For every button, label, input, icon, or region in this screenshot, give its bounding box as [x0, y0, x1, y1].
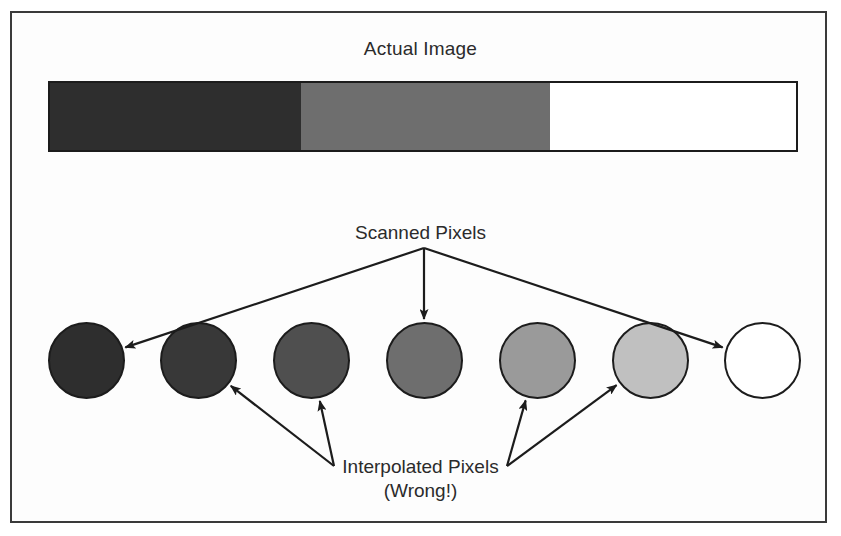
interpolated-label-block: Interpolated Pixels (Wrong!) — [0, 455, 841, 503]
scanned-pixels-label: Scanned Pixels — [0, 222, 841, 244]
interpolated-pixels-label: Interpolated Pixels — [0, 455, 841, 479]
interpolated-pixel-5 — [499, 322, 576, 399]
actual-image-title: Actual Image — [0, 38, 841, 60]
scanned-pixel-4 — [386, 322, 463, 399]
pixel-row — [0, 322, 841, 404]
interpolated-pixel-6 — [612, 322, 689, 399]
bar-segment-dark — [50, 83, 301, 150]
interpolated-pixel-3 — [273, 322, 350, 399]
scanned-pixel-1 — [48, 322, 125, 399]
interpolated-wrong-label: (Wrong!) — [0, 479, 841, 503]
bar-segment-white — [550, 83, 796, 150]
bar-segment-gray — [301, 83, 551, 150]
interpolated-pixel-2 — [160, 322, 237, 399]
actual-image-bar — [48, 81, 798, 152]
scanned-pixel-7 — [724, 322, 801, 399]
diagram-canvas: Actual Image Scanned Pixels Interpolated… — [0, 0, 841, 536]
